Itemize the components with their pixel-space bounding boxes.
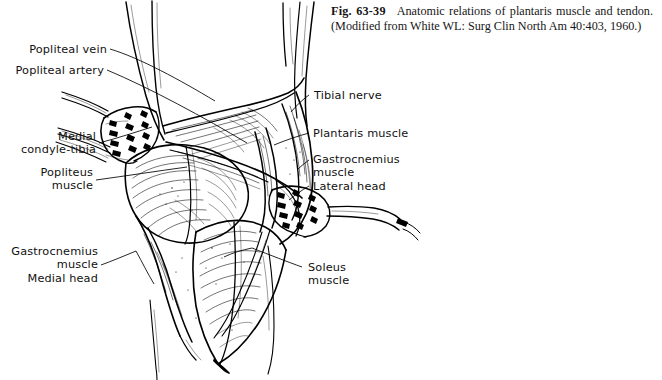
gastrocnemius-lateral-head bbox=[276, 92, 313, 244]
label-gastrocnemius-medial-head: Gastrocnemius muscle Medial head bbox=[0, 245, 98, 285]
figure-caption: Fig. 63-39Anatomic relations of plantari… bbox=[331, 4, 653, 33]
leader-soleus bbox=[252, 248, 302, 267]
leader-popliteal-artery bbox=[107, 70, 247, 143]
label-medial-condyle-tibia: Medial condyle-tibia bbox=[0, 130, 96, 157]
distal-strands bbox=[150, 246, 274, 380]
label-tibial-nerve: Tibial nerve bbox=[314, 89, 382, 102]
leader-gastroc-medial bbox=[101, 251, 136, 265]
leader-lines bbox=[96, 49, 309, 284]
leader-popliteal-vein bbox=[110, 49, 215, 101]
label-soleus-muscle: Soleus muscle bbox=[308, 261, 349, 288]
label-gastrocnemius-lateral-head: Gastrocnemius muscle Lateral head bbox=[313, 153, 400, 193]
soleus-muscle bbox=[193, 220, 286, 374]
proximal-neurovascular-strands bbox=[126, 1, 314, 140]
label-popliteal-artery: Popliteal artery bbox=[0, 64, 104, 77]
popliteal-fossa-upper-mass bbox=[163, 78, 304, 198]
gastrocnemius-medial-head bbox=[136, 216, 201, 360]
figure-page: Fig. 63-39Anatomic relations of plantari… bbox=[0, 0, 662, 380]
label-popliteal-vein: Popliteal vein bbox=[2, 43, 107, 56]
figure-number: Fig. 63-39 bbox=[331, 4, 386, 18]
leader-popliteus bbox=[96, 167, 187, 180]
label-popliteus-muscle: Popliteus muscle bbox=[0, 166, 93, 193]
medial-condyle-bone bbox=[101, 107, 159, 164]
label-plantaris-muscle: Plantaris muscle bbox=[313, 127, 408, 140]
